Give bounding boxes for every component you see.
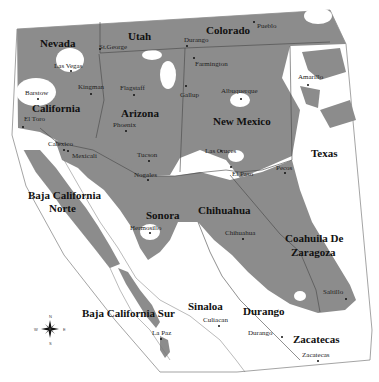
state-label: Sonora — [146, 210, 180, 221]
state-label: Baja California Sur — [82, 308, 175, 319]
city-marker-icon — [230, 166, 232, 168]
state-label: Zacatecas — [293, 334, 339, 345]
city-label: Durango — [184, 37, 209, 44]
city-label: Hermosillo — [130, 225, 162, 232]
city-label: Saltillo — [323, 289, 343, 296]
city-label: Kingman — [78, 84, 104, 91]
city-label: Flagstaff — [120, 85, 145, 92]
city-marker-icon — [186, 45, 188, 47]
compass-east-label: E — [63, 327, 66, 332]
city-label: Amarillo — [298, 74, 323, 81]
city-marker-icon — [240, 98, 242, 100]
city-label: Chihuahua — [225, 230, 255, 237]
city-label: Mexicali — [72, 153, 97, 160]
city-label: Pecos — [276, 165, 292, 172]
city-marker-icon — [148, 160, 150, 162]
city-label: Pueblo — [257, 23, 276, 30]
city-label: Culiacan — [203, 317, 228, 324]
city-marker-icon — [218, 325, 220, 327]
city-marker-icon — [253, 21, 255, 23]
city-marker-icon — [345, 298, 347, 300]
city-marker-icon — [307, 84, 309, 86]
city-label: Farmington — [195, 61, 228, 68]
city-marker-icon — [67, 150, 69, 152]
state-label: Durango — [243, 306, 285, 317]
city-label: St.George — [99, 44, 127, 51]
city-label: Durango — [248, 330, 273, 337]
city-marker-icon — [220, 150, 222, 152]
compass-west-label: W — [34, 327, 38, 332]
state-label: California — [32, 103, 80, 114]
state-label: Arizona — [121, 108, 159, 119]
city-label: Las Vegas — [54, 63, 82, 70]
state-label: Chihuahua — [198, 205, 251, 216]
state-label: Nevada — [40, 38, 75, 49]
city-marker-icon — [125, 130, 127, 132]
city-marker-icon — [242, 238, 244, 240]
city-label: La Paz — [152, 330, 171, 337]
city-marker-icon — [284, 172, 286, 174]
city-marker-icon — [99, 48, 101, 50]
state-label: Sinaloa — [188, 301, 223, 312]
state-label: Utah — [128, 31, 151, 42]
compass-south-label: S — [49, 341, 52, 346]
state-label: Baja California — [28, 190, 101, 201]
city-marker-icon — [185, 85, 187, 87]
city-label: Nogales — [134, 172, 157, 179]
state-label: Coahuila De — [285, 233, 343, 244]
city-label: Calexico — [48, 141, 73, 148]
compass-rose-icon — [41, 320, 59, 338]
city-marker-icon — [149, 232, 151, 234]
city-label: Albuquerque — [221, 88, 258, 95]
city-label: El Toro — [24, 116, 45, 123]
city-marker-icon — [63, 149, 65, 151]
state-label: Texas — [311, 148, 338, 159]
city-marker-icon — [37, 98, 39, 100]
city-label: Phoenix — [113, 122, 136, 129]
city-marker-icon — [147, 179, 149, 181]
state-label: Colorado — [206, 25, 250, 36]
city-marker-icon — [281, 336, 283, 338]
city-label: El Paso — [232, 171, 253, 178]
city-marker-icon — [133, 94, 135, 96]
state-label: Zaragoza — [291, 247, 336, 258]
city-marker-icon — [70, 70, 72, 72]
state-label: New Mexico — [213, 116, 271, 127]
city-marker-icon — [160, 338, 162, 340]
city-label: Tucson — [137, 152, 157, 159]
state-label: Norte — [49, 203, 76, 214]
city-marker-icon — [22, 126, 24, 128]
city-marker-icon — [193, 57, 195, 59]
city-label: Zacatecas — [302, 352, 330, 359]
city-label: Gallup — [180, 92, 199, 99]
city-label: Barstow — [25, 90, 48, 97]
city-marker-icon — [90, 93, 92, 95]
compass-north-label: N — [49, 314, 52, 319]
city-marker-icon — [317, 360, 319, 362]
